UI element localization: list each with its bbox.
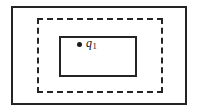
point-q1-label: q1	[86, 36, 96, 51]
inner-region-rectangle	[59, 36, 137, 77]
point-q1-dot-icon	[77, 42, 82, 47]
diagram-canvas: q1	[0, 0, 198, 112]
point-q1-label-subscript: 1	[92, 41, 96, 51]
